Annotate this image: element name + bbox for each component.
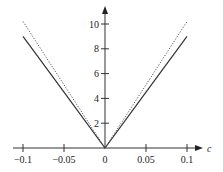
x-tick-label: −0.1 xyxy=(14,154,32,165)
y-tick-label: 8 xyxy=(94,43,99,54)
y-tick-label: 4 xyxy=(94,93,99,104)
y-tick-label: 6 xyxy=(94,68,99,79)
x-tick-label: 0 xyxy=(103,154,108,165)
x-axis-arrow-icon xyxy=(195,145,203,151)
x-tick-label: −0.05 xyxy=(52,154,75,165)
y-axis-arrow-icon xyxy=(102,6,108,14)
axes: c xyxy=(13,6,212,154)
chart: c −0.1−0.0500.050.1246810 xyxy=(0,0,223,172)
x-tick-label: 0.05 xyxy=(137,154,155,165)
ticks: −0.1−0.0500.050.1246810 xyxy=(14,19,193,166)
y-tick-label: 10 xyxy=(89,19,99,30)
x-tick-label: 0.1 xyxy=(181,154,194,165)
y-tick-label: 2 xyxy=(94,118,99,129)
x-axis-label: c xyxy=(207,143,212,154)
